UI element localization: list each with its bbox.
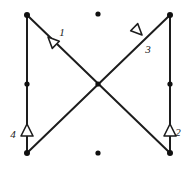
diagram-canvas: 1 3 4 2 bbox=[0, 0, 192, 171]
node-left-midspan bbox=[24, 81, 29, 86]
triangle-arrow-icon bbox=[164, 124, 176, 136]
triangle-arrow-icon bbox=[44, 33, 59, 48]
force-marker-2-label: 2 bbox=[175, 126, 181, 138]
force-marker-3-label: 3 bbox=[144, 43, 151, 55]
node-center-crossing bbox=[95, 81, 100, 86]
node-top-right bbox=[167, 12, 173, 18]
triangle-arrow-icon bbox=[131, 24, 146, 39]
node-top-left bbox=[24, 12, 30, 18]
diagram-svg: 1 3 4 2 bbox=[0, 0, 192, 171]
force-marker-2: 2 bbox=[164, 124, 181, 138]
force-marker-1: 1 bbox=[44, 26, 64, 49]
node-right-midspan bbox=[167, 81, 172, 86]
node-bottom-right bbox=[167, 150, 173, 156]
force-marker-4-label: 4 bbox=[10, 128, 16, 140]
node-bottom-left bbox=[24, 150, 30, 156]
force-marker-4: 4 bbox=[10, 124, 33, 140]
node-top-center-free bbox=[95, 11, 100, 16]
triangle-arrow-icon bbox=[21, 124, 33, 136]
force-marker-1-label: 1 bbox=[59, 26, 65, 38]
node-bottom-center-free bbox=[95, 150, 100, 155]
